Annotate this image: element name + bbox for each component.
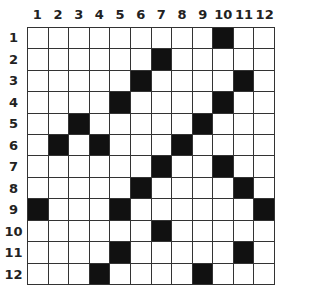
grid-cell[interactable] <box>49 28 69 48</box>
grid-cell[interactable] <box>28 49 48 69</box>
grid-cell[interactable] <box>213 49 233 69</box>
grid-cell[interactable] <box>131 156 151 176</box>
grid-cell-black[interactable] <box>152 156 172 176</box>
grid-cell[interactable] <box>254 178 274 198</box>
grid-cell[interactable] <box>152 28 172 48</box>
grid-cell[interactable] <box>152 71 172 91</box>
grid-cell[interactable] <box>28 28 48 48</box>
grid-cell-black[interactable] <box>110 242 130 262</box>
grid-cell[interactable] <box>131 28 151 48</box>
grid-cell[interactable] <box>90 199 110 219</box>
grid-cell[interactable] <box>49 49 69 69</box>
grid-cell[interactable] <box>49 221 69 241</box>
grid-cell[interactable] <box>110 135 130 155</box>
grid-cell[interactable] <box>152 92 172 112</box>
grid-cell[interactable] <box>234 28 254 48</box>
grid-cell[interactable] <box>131 221 151 241</box>
grid-cell[interactable] <box>254 156 274 176</box>
grid-cell-black[interactable] <box>254 199 274 219</box>
grid-cell[interactable] <box>213 114 233 134</box>
grid-cell[interactable] <box>90 221 110 241</box>
grid-cell[interactable] <box>28 135 48 155</box>
grid-cell[interactable] <box>152 242 172 262</box>
grid-cell-black[interactable] <box>213 28 233 48</box>
grid-cell[interactable] <box>234 199 254 219</box>
grid-cell[interactable] <box>254 49 274 69</box>
grid-cell[interactable] <box>254 135 274 155</box>
grid-cell[interactable] <box>234 264 254 284</box>
grid-cell[interactable] <box>254 92 274 112</box>
grid-cell-black[interactable] <box>131 178 151 198</box>
grid-cell[interactable] <box>28 114 48 134</box>
grid-cell[interactable] <box>110 264 130 284</box>
grid-cell-black[interactable] <box>131 71 151 91</box>
grid-cell[interactable] <box>234 114 254 134</box>
grid-cell[interactable] <box>69 242 89 262</box>
grid-cell[interactable] <box>49 199 69 219</box>
grid-cell[interactable] <box>28 221 48 241</box>
grid-cell[interactable] <box>254 221 274 241</box>
grid-cell[interactable] <box>254 242 274 262</box>
grid-cell[interactable] <box>69 264 89 284</box>
grid-cell-black[interactable] <box>152 221 172 241</box>
grid-cell[interactable] <box>172 114 192 134</box>
grid-cell[interactable] <box>213 71 233 91</box>
grid-cell-black[interactable] <box>49 135 69 155</box>
grid-cell[interactable] <box>110 221 130 241</box>
grid-cell[interactable] <box>69 71 89 91</box>
grid-cell[interactable] <box>234 92 254 112</box>
grid-cell-black[interactable] <box>90 264 110 284</box>
grid-cell[interactable] <box>49 156 69 176</box>
grid-cell[interactable] <box>193 199 213 219</box>
grid-cell-black[interactable] <box>69 114 89 134</box>
grid-cell[interactable] <box>254 71 274 91</box>
grid-cell[interactable] <box>69 199 89 219</box>
grid-cell-black[interactable] <box>234 242 254 262</box>
grid-cell[interactable] <box>152 178 172 198</box>
grid-cell[interactable] <box>254 114 274 134</box>
grid-cell[interactable] <box>131 49 151 69</box>
grid-cell[interactable] <box>234 135 254 155</box>
grid-cell[interactable] <box>131 135 151 155</box>
grid-cell[interactable] <box>193 49 213 69</box>
grid-cell-black[interactable] <box>28 199 48 219</box>
grid-cell[interactable] <box>172 242 192 262</box>
grid-cell[interactable] <box>110 178 130 198</box>
grid-cell[interactable] <box>172 199 192 219</box>
grid-cell[interactable] <box>193 242 213 262</box>
grid-cell-black[interactable] <box>172 135 192 155</box>
grid-cell[interactable] <box>69 135 89 155</box>
grid-cell-black[interactable] <box>213 92 233 112</box>
grid-cell[interactable] <box>193 135 213 155</box>
grid-cell[interactable] <box>172 221 192 241</box>
grid-cell[interactable] <box>152 135 172 155</box>
grid-cell[interactable] <box>213 221 233 241</box>
grid-cell[interactable] <box>28 264 48 284</box>
grid-cell[interactable] <box>234 49 254 69</box>
grid-cell[interactable] <box>28 92 48 112</box>
grid-cell-black[interactable] <box>110 92 130 112</box>
grid-cell[interactable] <box>234 156 254 176</box>
grid-cell[interactable] <box>49 71 69 91</box>
grid-cell[interactable] <box>172 264 192 284</box>
grid-cell[interactable] <box>254 28 274 48</box>
grid-cell[interactable] <box>193 178 213 198</box>
grid-cell[interactable] <box>152 199 172 219</box>
grid-cell[interactable] <box>28 178 48 198</box>
grid-cell[interactable] <box>131 199 151 219</box>
grid-cell-black[interactable] <box>193 114 213 134</box>
grid-cell[interactable] <box>90 242 110 262</box>
grid-cell[interactable] <box>69 49 89 69</box>
grid-cell[interactable] <box>152 114 172 134</box>
grid-cell[interactable] <box>90 49 110 69</box>
grid-cell-black[interactable] <box>234 71 254 91</box>
grid-cell[interactable] <box>28 71 48 91</box>
grid-cell-black[interactable] <box>234 178 254 198</box>
grid-cell[interactable] <box>49 178 69 198</box>
grid-cell[interactable] <box>213 178 233 198</box>
grid-cell[interactable] <box>110 114 130 134</box>
grid-cell[interactable] <box>213 264 233 284</box>
grid-cell-black[interactable] <box>110 199 130 219</box>
grid-cell[interactable] <box>49 264 69 284</box>
grid-cell[interactable] <box>110 49 130 69</box>
